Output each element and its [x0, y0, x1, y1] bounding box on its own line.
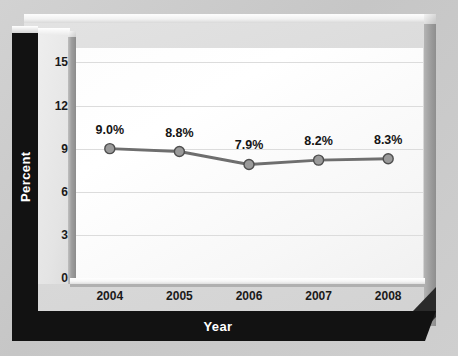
chart-back-panel-right-bevel — [424, 14, 436, 326]
data-point-labels: 9.0%8.8%7.9%8.2%8.3% — [75, 48, 423, 278]
x-axis-tick-label: 2008 — [375, 289, 402, 303]
chart-back-panel-corner-cap — [424, 14, 436, 24]
y-axis-tick-labels: 15129630 — [36, 48, 68, 278]
y-axis-tick-label: 15 — [38, 55, 68, 69]
data-point-label: 8.8% — [165, 126, 194, 140]
x-axis-tick-label: 2005 — [166, 289, 193, 303]
x-axis-tick-labels: 20042005200620072008 — [75, 289, 423, 307]
y-axis-tick-label: 0 — [38, 271, 68, 285]
x-axis-title: Year — [12, 311, 424, 341]
x-axis-tick-label: 2007 — [305, 289, 332, 303]
y-axis-tick-label: 3 — [38, 228, 68, 242]
data-point-label: 8.2% — [304, 134, 333, 148]
y-axis-post-cap — [68, 31, 76, 37]
data-point-label: 8.3% — [374, 133, 403, 147]
data-point-label: 9.0% — [96, 123, 125, 137]
y-axis-tick-label: 9 — [38, 142, 68, 156]
x-axis-tick-label: 2004 — [96, 289, 123, 303]
data-point-label: 7.9% — [235, 138, 264, 152]
y-axis-riser-top-bevel — [38, 28, 70, 35]
y-axis-title: Percent — [12, 32, 38, 321]
y-axis-tick-label: 12 — [38, 99, 68, 113]
x-axis-floor-edge — [70, 284, 425, 287]
x-axis-tick-label: 2006 — [236, 289, 263, 303]
chart-container: 9.0%8.8%7.9%8.2%8.3% 15129630 2004200520… — [0, 0, 458, 356]
y-axis-tick-label: 6 — [38, 185, 68, 199]
chart-back-panel-top-bevel — [24, 14, 436, 23]
